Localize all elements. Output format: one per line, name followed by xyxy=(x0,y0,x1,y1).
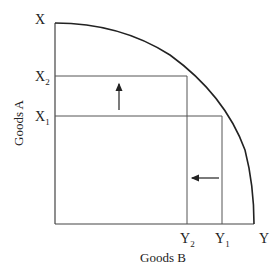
ppf-curve xyxy=(55,23,254,224)
tick-y2: Y2 xyxy=(180,231,195,249)
tick-y: Y xyxy=(259,231,269,246)
y-axis-title: Goods A xyxy=(11,99,26,145)
tick-x1: X1 xyxy=(35,109,50,127)
tick-x: X xyxy=(35,12,45,27)
x-axis-title: Goods B xyxy=(140,250,186,265)
ppf-diagram: X X2 X1 Y2 Y1 Y Goods B Goods A xyxy=(0,0,280,272)
tick-x2: X2 xyxy=(35,69,50,87)
tick-y1: Y1 xyxy=(215,231,230,249)
